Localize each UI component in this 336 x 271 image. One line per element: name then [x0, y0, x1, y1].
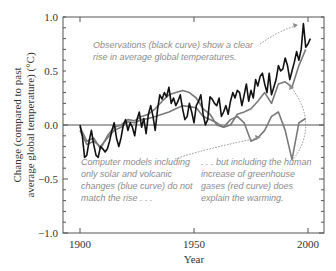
arrow-observations [260, 26, 296, 44]
annotation-greenhouse-line2: increase of greenhouse [201, 169, 295, 179]
greenhouse-model-curve [80, 49, 306, 146]
annotation-greenhouse-line3: gases (red curve) does [201, 181, 294, 191]
annotation-solar-line1: Computer models including [81, 157, 190, 167]
x-tick-1950: 1950 [183, 238, 206, 250]
annotation-observations-line1: Observations (black curve) show a clear [93, 40, 254, 50]
y-tick-neg1.0: −1.0 [38, 227, 58, 239]
y-axis-title-line1: Change (compared to past [11, 67, 24, 182]
x-axis-title: Year [184, 253, 205, 265]
annotation-solar-line4: match the rise . . . [81, 193, 153, 203]
temperature-change-chart: 1.0 0.5 0.0 −0.5 −1.0 1900 1950 2000 Yea… [0, 0, 336, 271]
y-tick-0.0: 0.0 [44, 119, 58, 131]
annotation-observations-line2: rise in average global temperatures. [93, 52, 237, 62]
x-tick-2000: 2000 [297, 238, 320, 250]
arrow-head-observations [293, 23, 298, 28]
annotation-solar-line2: only solar and volcanic [81, 169, 173, 179]
y-tick-neg0.5: −0.5 [38, 173, 58, 185]
arrow-solar [175, 138, 258, 159]
y-tick-0.5: 0.5 [44, 65, 58, 77]
annotation-greenhouse-line4: explain the warming. [201, 193, 284, 203]
y-tick-1.0: 1.0 [44, 11, 58, 23]
annotation-solar-line3: changes (blue curve) do not [81, 181, 193, 191]
annotation-greenhouse-line1: . . . but including the human [201, 157, 312, 167]
x-tick-1900: 1900 [69, 238, 92, 250]
y-axis-title-line2: average global temperature) (°C) [24, 52, 37, 198]
